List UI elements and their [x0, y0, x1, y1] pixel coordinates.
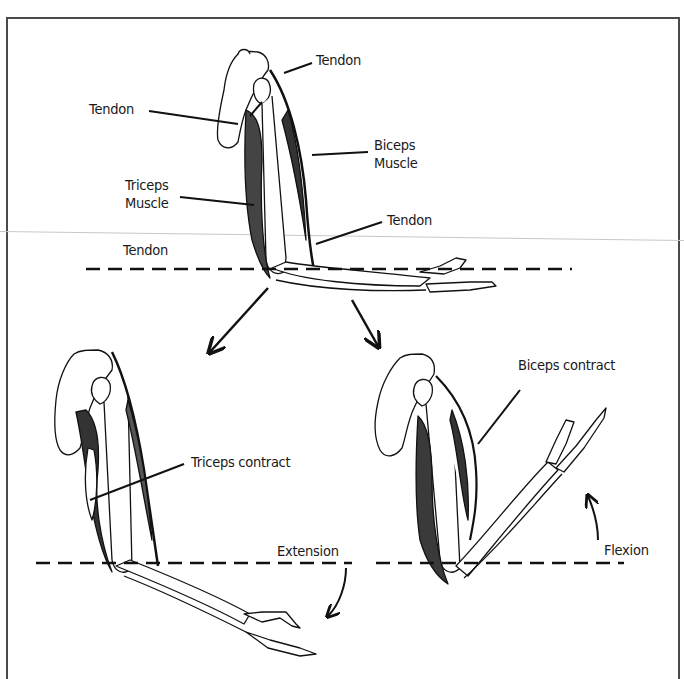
label-tendon-left: Tendon — [89, 100, 134, 118]
label-tendon-bottom: Tendon — [123, 241, 168, 259]
label-biceps-muscle-line2: Muscle — [374, 154, 418, 172]
arrow-to-flexion — [352, 300, 378, 346]
flexion-direction-arrow — [588, 496, 598, 540]
label-biceps-muscle-line1: Biceps — [374, 136, 415, 154]
triceps-contract-leader — [90, 464, 184, 500]
label-extension: Extension — [277, 542, 339, 560]
label-triceps-contract: Triceps contract — [191, 453, 290, 471]
tendon-top-leader — [284, 63, 312, 73]
label-tendon-right: Tendon — [387, 211, 432, 229]
biceps-contract-leader — [478, 390, 520, 444]
label-triceps-muscle-line1: Triceps — [125, 176, 168, 194]
biceps-muscle-leader — [312, 152, 368, 155]
label-tendon-top: Tendon — [316, 51, 361, 69]
label-biceps-contract: Biceps contract — [518, 356, 615, 374]
top-arm-illustration — [217, 50, 496, 293]
triceps-muscle-leader — [180, 197, 254, 205]
tendon-right-leader — [316, 222, 382, 244]
flexion-arm-illustration — [375, 354, 606, 584]
label-triceps-muscle-line2: Muscle — [125, 194, 169, 212]
extension-direction-arrow — [328, 568, 346, 616]
arrow-to-extension — [210, 288, 268, 352]
label-flexion: Flexion — [604, 541, 649, 559]
extension-arm-illustration — [55, 350, 316, 656]
